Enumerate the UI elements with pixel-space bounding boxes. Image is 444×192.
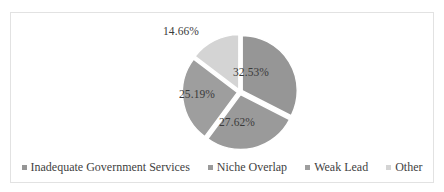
chart-frame: 14.66% 32.53% 27.62% 25.19% Inadequate G…	[10, 12, 434, 183]
legend-item-label: Weak Lead	[314, 160, 368, 175]
legend-marker-icon	[386, 165, 391, 170]
legend-item-inadequate-government-services[interactable]: Inadequate Government Services	[22, 160, 190, 175]
legend-marker-icon	[208, 165, 213, 170]
slice-label-other: 14.66%	[163, 25, 199, 37]
slice-label-inadequate-government-services: 32.53%	[233, 66, 269, 78]
slice-label-weak-lead: 25.19%	[179, 88, 215, 100]
slice-label-niche-overlap: 27.62%	[219, 116, 255, 128]
legend-item-weak-lead[interactable]: Weak Lead	[305, 160, 368, 175]
legend-item-other[interactable]: Other	[386, 160, 422, 175]
legend-item-label: Inadequate Government Services	[31, 160, 190, 175]
chart-legend: Inadequate Government Services Niche Ove…	[11, 152, 433, 182]
legend-item-label: Other	[395, 160, 422, 175]
legend-marker-icon	[22, 165, 27, 170]
legend-marker-icon	[305, 165, 310, 170]
legend-item-label: Niche Overlap	[217, 160, 287, 175]
pie-chart-svg	[11, 13, 433, 153]
pie-chart-plot-area: 14.66% 32.53% 27.62% 25.19%	[11, 13, 433, 153]
legend-item-niche-overlap[interactable]: Niche Overlap	[208, 160, 287, 175]
